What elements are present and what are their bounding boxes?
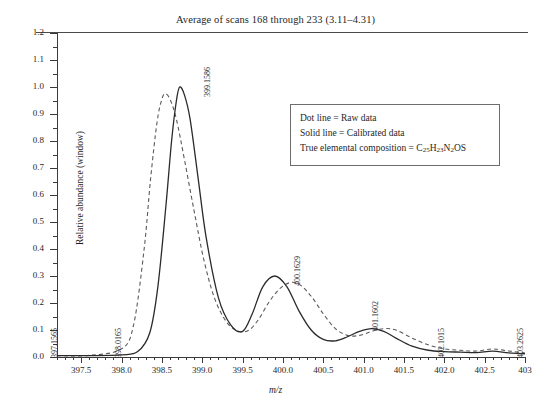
- x-tick-minor: [396, 357, 397, 360]
- x-tick-minor: [170, 357, 171, 360]
- y-tick: [50, 276, 57, 277]
- x-tick-minor: [477, 357, 478, 360]
- legend-calibrated-line: Solid line = Calibrated data: [300, 126, 490, 141]
- x-tick-minor: [235, 357, 236, 360]
- x-tick-minor: [73, 357, 74, 360]
- y-tick: [50, 141, 57, 142]
- legend-composition-line: True elemental composition = C25H23N2OS: [300, 141, 490, 158]
- x-tick-minor: [210, 357, 211, 360]
- x-tick-minor: [307, 357, 308, 360]
- x-tick-minor: [291, 357, 292, 360]
- peak-label: 402.1015: [437, 328, 446, 358]
- plot-area: Relative abundance (window): [57, 33, 525, 357]
- x-tick: [283, 357, 284, 363]
- x-tick: [81, 357, 82, 363]
- x-tick-minor: [89, 357, 90, 360]
- x-tick: [525, 357, 526, 363]
- x-tick: [404, 357, 405, 363]
- composition-sub-2: 23: [437, 146, 444, 154]
- y-tick-label: 1.2: [2, 27, 44, 37]
- x-tick: [323, 357, 324, 363]
- x-tick-minor: [218, 357, 219, 360]
- x-tick-minor: [420, 357, 421, 360]
- x-tick-minor: [493, 357, 494, 360]
- x-tick-minor: [65, 357, 66, 360]
- x-tick-minor: [251, 357, 252, 360]
- x-tick-label: 403: [495, 365, 551, 375]
- x-tick-minor: [105, 357, 106, 360]
- x-tick-minor: [186, 357, 187, 360]
- x-tick: [485, 357, 486, 363]
- legend-raw-line: Dot line = Raw data: [300, 111, 490, 126]
- chart-title: Average of scans 168 through 233 (3.11–4…: [0, 14, 551, 25]
- legend-box: Dot line = Raw data Solid line = Calibra…: [290, 104, 500, 166]
- x-tick-minor: [412, 357, 413, 360]
- x-tick: [162, 357, 163, 363]
- y-tick-label: 0.9: [2, 108, 44, 118]
- y-tick: [50, 87, 57, 88]
- y-tick-label: 0.6: [2, 189, 44, 199]
- composition-sub-1: 25: [423, 146, 430, 154]
- x-tick-minor: [130, 357, 131, 360]
- x-tick-minor: [509, 357, 510, 360]
- x-tick-minor: [452, 357, 453, 360]
- composition-mid-1: H: [430, 143, 437, 153]
- x-tick-minor: [146, 357, 147, 360]
- x-tick-minor: [138, 357, 139, 360]
- y-tick: [50, 249, 57, 250]
- x-tick-minor: [388, 357, 389, 360]
- x-tick: [243, 357, 244, 363]
- x-tick-minor: [428, 357, 429, 360]
- y-tick: [50, 168, 57, 169]
- y-tick: [50, 33, 57, 34]
- x-tick-minor: [356, 357, 357, 360]
- x-tick-minor: [380, 357, 381, 360]
- spectrum-curves: [57, 33, 525, 357]
- x-axis-title: m/z: [0, 385, 551, 395]
- composition-prefix: True elemental composition = C: [300, 143, 423, 153]
- y-tick-label: 0.0: [2, 351, 44, 361]
- x-tick-minor: [275, 357, 276, 360]
- x-tick-minor: [469, 357, 470, 360]
- x-tick: [202, 357, 203, 363]
- y-tick-label: 1.1: [2, 54, 44, 64]
- x-tick-minor: [267, 357, 268, 360]
- peak-label: 400.1629: [293, 256, 302, 286]
- x-tick-minor: [347, 357, 348, 360]
- composition-tail: OS: [454, 143, 466, 153]
- x-tick-minor: [178, 357, 179, 360]
- y-tick: [50, 303, 57, 304]
- x-tick-minor: [97, 357, 98, 360]
- x-tick-minor: [194, 357, 195, 360]
- y-tick: [50, 195, 57, 196]
- y-tick: [50, 114, 57, 115]
- x-tick-minor: [299, 357, 300, 360]
- y-tick-label: 0.4: [2, 243, 44, 253]
- y-tick-label: 0.2: [2, 297, 44, 307]
- y-tick-label: 0.8: [2, 135, 44, 145]
- x-tick-minor: [259, 357, 260, 360]
- y-tick: [50, 222, 57, 223]
- y-tick-label: 1.0: [2, 81, 44, 91]
- x-tick: [364, 357, 365, 363]
- mass-spectrum-figure: Average of scans 168 through 233 (3.11–4…: [0, 0, 551, 415]
- x-tick-minor: [460, 357, 461, 360]
- y-tick: [50, 60, 57, 61]
- y-tick-label: 0.5: [2, 216, 44, 226]
- x-tick-minor: [154, 357, 155, 360]
- y-tick-label: 0.1: [2, 324, 44, 334]
- y-tick-label: 0.3: [2, 270, 44, 280]
- peak-label: 398.0165: [114, 328, 123, 358]
- x-tick-minor: [331, 357, 332, 360]
- x-tick-minor: [339, 357, 340, 360]
- peak-label: 403.2625: [516, 328, 525, 358]
- x-tick-minor: [315, 357, 316, 360]
- peak-label: 397.1565: [50, 328, 59, 358]
- peak-label: 401.1602: [371, 301, 380, 331]
- x-tick-minor: [372, 357, 373, 360]
- y-tick-label: 0.7: [2, 162, 44, 172]
- peak-label: 399.1586: [203, 67, 212, 97]
- x-tick-minor: [226, 357, 227, 360]
- x-tick-minor: [501, 357, 502, 360]
